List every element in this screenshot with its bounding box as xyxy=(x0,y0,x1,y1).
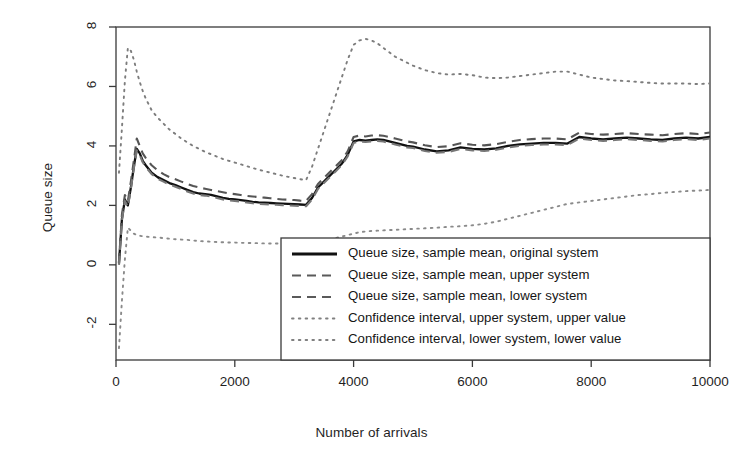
y-tick-label: 4 xyxy=(84,127,99,161)
chart-plot-area xyxy=(0,0,743,462)
series-line-3 xyxy=(119,39,710,180)
y-tick-label: 8 xyxy=(84,9,99,43)
y-tick-label: 2 xyxy=(84,187,99,221)
legend-label-0: Queue size, sample mean, original system xyxy=(348,245,598,260)
y-tick-label: 6 xyxy=(84,68,99,102)
legend-label-2: Queue size, sample mean, lower system xyxy=(348,288,587,303)
legend-label-1: Queue size, sample mean, upper system xyxy=(348,267,590,282)
chart-figure: Queue size Number of arrivals -202468 02… xyxy=(0,0,743,462)
x-tick-label: 4000 xyxy=(314,374,394,389)
x-tick-label: 2000 xyxy=(195,374,275,389)
legend-label-3: Confidence interval, upper system, upper… xyxy=(348,310,626,325)
x-tick-label: 10000 xyxy=(670,374,743,389)
y-tick-label: 0 xyxy=(84,246,99,280)
x-tick-label: 0 xyxy=(76,374,156,389)
legend-label-4: Confidence interval, lower system, lower… xyxy=(348,331,622,346)
x-axis-title: Number of arrivals xyxy=(0,425,743,440)
x-tick-label: 6000 xyxy=(432,374,512,389)
y-tick-label: -2 xyxy=(84,306,99,340)
x-tick-label: 8000 xyxy=(551,374,631,389)
y-axis-title: Queue size xyxy=(40,138,55,258)
